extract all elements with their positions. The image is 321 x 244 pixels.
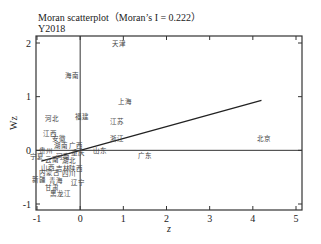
point-label: 新疆: [32, 175, 46, 184]
x-tick-label: 3: [207, 213, 212, 224]
moran-scatterplot: -1012345-1012天津海南上海河北福建江苏江西安徽浙江北京湖南广西贵州重…: [0, 0, 321, 244]
point-label: 海南: [65, 71, 79, 80]
x-tick-label: 0: [78, 213, 83, 224]
point-label: 黑龙江: [50, 189, 71, 198]
x-tick-label: -1: [33, 213, 41, 224]
point-label: 福建: [75, 112, 89, 121]
point-label: 北京: [257, 134, 271, 143]
point-label: 湖北: [62, 156, 76, 165]
point-label: 广东: [138, 151, 152, 160]
point-label: 辽宁: [71, 178, 85, 187]
point-label: 四川: [62, 170, 76, 178]
x-axis-label: z: [166, 223, 171, 234]
y-tick-label: 2: [26, 38, 31, 49]
point-label: 重庆: [71, 148, 85, 157]
y-tick-label: -1: [23, 199, 31, 210]
point-label: 天津: [112, 40, 126, 48]
point-label: 浙江: [110, 134, 124, 143]
y-axis-label: Wz: [8, 116, 19, 130]
point-label: 江苏: [110, 117, 124, 126]
point-label: 河北: [45, 115, 59, 123]
x-tick-label: 1: [121, 213, 126, 224]
point-label: 宁夏: [30, 152, 44, 161]
y-tick-label: 1: [26, 91, 31, 102]
point-label: 湖南: [54, 141, 68, 150]
x-tick-label: 4: [250, 213, 255, 224]
point-label: 山东: [93, 146, 107, 155]
x-tick-label: 5: [294, 213, 299, 224]
point-label: 上海: [118, 97, 132, 106]
